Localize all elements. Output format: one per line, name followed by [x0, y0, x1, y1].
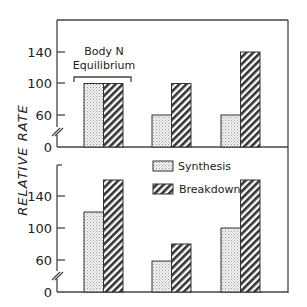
- bar-breakdown-2: [172, 244, 192, 292]
- bar-breakdown-3: [241, 180, 261, 292]
- tick-label-60: 60: [35, 108, 52, 123]
- tick-label-100: 100: [27, 221, 52, 236]
- legend-swatch-breakdown: [153, 184, 173, 194]
- tick-label-140: 140: [27, 189, 52, 204]
- tick-label-60: 60: [35, 253, 52, 268]
- axis-break-icon: [52, 271, 63, 280]
- axis-break-icon: [52, 127, 63, 136]
- tick-label-140: 140: [27, 45, 52, 60]
- tick-label-0: 0: [44, 285, 52, 300]
- bottom-bars: [84, 180, 260, 292]
- bar-synthesis-3: [221, 228, 241, 292]
- bar-synthesis-1: [84, 212, 104, 292]
- bar-breakdown-1: [104, 84, 124, 148]
- bar-synthesis-2: [152, 261, 172, 292]
- legend: Synthesis Breakdown: [153, 160, 240, 196]
- bar-synthesis-2: [152, 115, 172, 147]
- annotation-line2: Equilibrium: [73, 59, 135, 72]
- bar-breakdown-2: [172, 84, 192, 148]
- tick-label-100: 100: [27, 76, 52, 91]
- relative-rate-chart: RELATIVE RATE 140 100 60 0 Body N Equili…: [0, 0, 307, 307]
- annotation-bracket: [74, 77, 131, 82]
- tick-label-0: 0: [44, 140, 52, 155]
- bottom-panel: 140 100 60 0 Synthesis Breakdown: [27, 160, 288, 300]
- bar-synthesis-1: [84, 84, 104, 148]
- annotation-line1: Body N: [84, 45, 124, 58]
- top-panel: 140 100 60 0 Body N Equilibrium: [27, 20, 288, 155]
- legend-label-breakdown: Breakdown: [179, 183, 240, 196]
- bar-breakdown-1: [104, 180, 124, 292]
- bar-synthesis-3: [221, 115, 241, 147]
- legend-swatch-synthesis: [153, 161, 173, 171]
- legend-label-synthesis: Synthesis: [178, 160, 231, 173]
- bar-breakdown-3: [241, 52, 261, 147]
